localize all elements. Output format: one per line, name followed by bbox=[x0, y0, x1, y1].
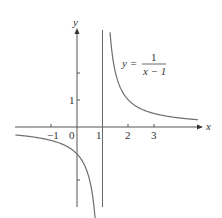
y-axis-arrow-icon bbox=[75, 28, 80, 34]
y-tick-label: 1 bbox=[69, 94, 75, 106]
x-tick-label: 0 bbox=[69, 129, 75, 141]
x-tick-label: −1 bbox=[47, 129, 59, 141]
x-axis-label: x bbox=[205, 120, 211, 132]
x-axis-arrow-icon bbox=[197, 125, 203, 130]
x-tick-label: 3 bbox=[151, 129, 157, 141]
equation-lhs: y = bbox=[121, 57, 137, 69]
chart: −1 0 1 2 3 1 x y y = 1 x − 1 bbox=[0, 0, 222, 218]
x-tick-label: 2 bbox=[125, 129, 131, 141]
curve-left-branch bbox=[15, 135, 99, 218]
equation-denominator: x − 1 bbox=[142, 65, 166, 77]
x-tick-label: 1 bbox=[96, 129, 102, 141]
equation-numerator: 1 bbox=[151, 51, 157, 63]
y-axis-label: y bbox=[72, 16, 78, 28]
